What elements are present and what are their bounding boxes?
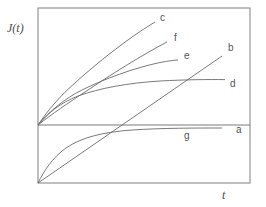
curve-label-b: b [228,42,234,53]
curve-label-a: a [236,124,242,135]
figure-container: J(t) t a b c d e f g [0,0,266,207]
plot-canvas [0,0,266,207]
y-axis-label: J(t) [7,21,24,36]
curve-label-e: e [184,50,190,61]
curve-label-f: f [174,32,177,43]
curve-label-g: g [184,130,190,141]
plot-frame [38,8,250,183]
curve-label-c: c [160,12,165,23]
x-axis-label: t [222,188,225,203]
curve-label-d: d [230,78,236,89]
